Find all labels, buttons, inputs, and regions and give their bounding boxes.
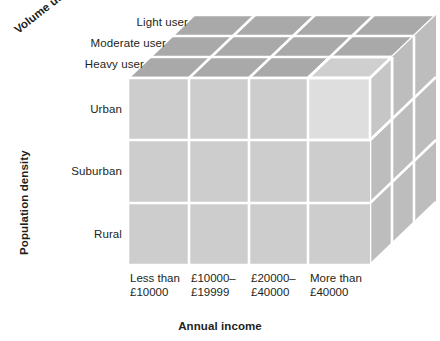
axis-title-annual-income: Annual income — [0, 320, 440, 332]
income-label-col1: Less than £10000 — [130, 272, 192, 299]
income-label-col4: More than £40000 — [310, 272, 378, 299]
density-label-rural: Rural — [36, 228, 122, 241]
income-label-col2: £10000– £19999 — [191, 272, 253, 299]
density-label-urban: Urban — [36, 103, 122, 116]
density-label-suburban: Suburban — [36, 165, 122, 178]
segmentation-cube-figure: Light user Moderate user Heavy user Urba… — [0, 0, 440, 341]
volume-label-heavy: Heavy user — [0, 58, 144, 71]
income-label-col3: £20000– £40000 — [251, 272, 313, 299]
front-face-group — [128, 57, 392, 265]
volume-label-light: Light user — [40, 16, 188, 29]
front-cell-urban-more-than-40000-highlight — [308, 78, 370, 140]
volume-label-moderate: Moderate user — [18, 37, 166, 50]
axis-title-population-density: Population density — [18, 150, 30, 255]
